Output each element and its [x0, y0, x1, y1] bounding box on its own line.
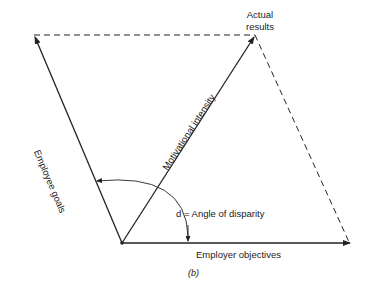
angle-of-disparity-arc	[97, 180, 188, 236]
employer-objectives-label: Employer objectives	[196, 249, 281, 260]
origin-point	[120, 241, 124, 245]
dashed-right-edge	[255, 35, 349, 242]
diagram: Actual results Employee goals Motivation…	[0, 0, 367, 289]
employee-goals-vector	[35, 37, 122, 243]
actual-results-line2: results	[246, 21, 274, 33]
actual-results-line1: Actual	[246, 9, 274, 21]
figure-caption: (b)	[188, 268, 199, 278]
angle-of-disparity-label: d = Angle of disparity	[176, 208, 264, 219]
actual-results-label: Actual results	[246, 9, 274, 33]
